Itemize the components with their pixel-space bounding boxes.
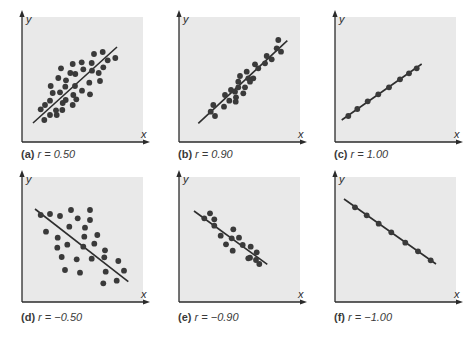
data-point: [66, 224, 72, 230]
data-point: [57, 89, 63, 95]
data-point: [70, 61, 76, 67]
data-point: [222, 92, 228, 98]
data-point: [62, 84, 68, 90]
data-point: [42, 102, 48, 108]
panel-tag: (a): [21, 148, 34, 160]
panel-tag: (c): [334, 148, 347, 160]
panel-tag: (f): [334, 311, 345, 323]
data-point: [207, 210, 213, 216]
data-point: [115, 258, 121, 264]
data-point: [235, 84, 241, 90]
data-point: [73, 96, 79, 102]
data-point: [406, 70, 412, 76]
scatter-panel-f: xy: [332, 170, 463, 305]
data-point: [211, 216, 217, 222]
data-point: [89, 60, 95, 66]
x-axis-label: x: [297, 128, 304, 140]
data-point: [114, 278, 120, 284]
data-point: [96, 70, 102, 76]
data-point: [81, 234, 87, 240]
y-axis-arrow-icon: [332, 10, 337, 17]
scatter-panel-c: xy: [332, 10, 463, 145]
data-point: [397, 76, 403, 82]
data-point: [43, 229, 49, 235]
x-axis-arrow-icon: [300, 299, 307, 304]
x-axis-label: x: [453, 128, 460, 140]
panel-label-b: (b) r = 0.90: [178, 148, 233, 160]
data-point: [59, 254, 65, 260]
scatter-panel-e: xy: [176, 170, 307, 305]
data-point: [235, 79, 241, 85]
x-axis-label: x: [297, 288, 304, 300]
data-point: [94, 232, 100, 238]
data-point: [242, 84, 248, 90]
data-point: [221, 104, 227, 110]
data-point: [91, 241, 97, 247]
data-point: [55, 75, 61, 81]
y-axis-arrow-icon: [332, 170, 337, 177]
plot-area: [22, 17, 143, 142]
data-point: [105, 57, 111, 63]
data-point: [79, 88, 85, 94]
data-point: [54, 245, 60, 251]
data-point: [233, 99, 239, 105]
data-point: [278, 49, 284, 55]
data-point: [230, 226, 236, 232]
scatter-panel-b: xy: [176, 10, 307, 145]
data-point: [102, 247, 108, 253]
data-point: [415, 248, 421, 254]
data-point: [59, 107, 65, 113]
data-point: [269, 56, 275, 62]
data-point: [87, 91, 93, 97]
plot-area: [335, 17, 456, 142]
data-point: [402, 240, 408, 246]
data-point: [375, 91, 381, 97]
data-point: [414, 65, 420, 71]
panel-tag: (b): [178, 148, 192, 160]
x-axis-label: x: [453, 288, 460, 300]
data-point: [100, 49, 106, 55]
data-point: [262, 60, 268, 66]
data-point: [386, 84, 392, 90]
data-point: [101, 254, 107, 260]
scatter-panel-d: xy: [19, 170, 150, 305]
x-axis-arrow-icon: [456, 139, 463, 144]
data-point: [64, 242, 70, 248]
correlation-scatter-figure: xyxyxyxyxyxy: [0, 0, 476, 342]
data-point: [121, 268, 127, 274]
panel-tag: (d): [21, 311, 35, 323]
data-point: [352, 204, 358, 210]
data-point: [86, 80, 92, 86]
panel-label-c: (c) r = 1.00: [334, 148, 388, 160]
data-point: [87, 207, 93, 213]
data-point: [236, 235, 242, 241]
data-point: [48, 83, 54, 89]
data-point: [230, 248, 236, 254]
x-axis-label: x: [140, 288, 147, 300]
data-point: [57, 213, 63, 219]
data-point: [255, 65, 261, 71]
data-point: [63, 77, 69, 83]
data-point: [264, 53, 270, 59]
correlation-value: r = 0.90: [195, 148, 233, 160]
data-point: [240, 242, 246, 248]
data-point: [245, 255, 251, 261]
data-point: [72, 71, 78, 77]
data-point: [365, 98, 371, 104]
correlation-value: r = −0.90: [195, 311, 239, 323]
data-point: [226, 98, 232, 104]
data-point: [100, 280, 106, 286]
data-point: [82, 225, 88, 231]
data-point: [100, 64, 106, 70]
data-point: [211, 223, 217, 229]
data-point: [41, 117, 47, 123]
data-point: [229, 235, 235, 241]
data-point: [55, 235, 61, 241]
data-point: [77, 270, 83, 276]
data-point: [68, 207, 74, 213]
data-point: [103, 269, 109, 275]
correlation-value: r = 0.50: [38, 148, 76, 160]
data-point: [388, 229, 394, 235]
data-point: [47, 98, 53, 104]
data-point: [47, 112, 53, 118]
